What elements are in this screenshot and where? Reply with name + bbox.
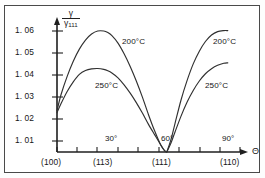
y-axis-numerator: γ	[62, 9, 80, 18]
x-axis-symbol-theta: Θ	[252, 147, 259, 156]
x-axis	[57, 149, 248, 155]
x-angle-label-30: 30°	[105, 135, 117, 143]
series-label-250c-left: 250°C	[95, 82, 118, 90]
y-axis-title: γ γ111	[62, 9, 80, 28]
series-label-200c-left: 200°C	[122, 38, 145, 46]
y-tick-label-1-01: 1. 01	[15, 136, 34, 144]
x-angle-label-60: 60°	[161, 135, 173, 143]
series-label-250c-right: 250°C	[205, 82, 228, 90]
x-angle-label-90: 90°	[222, 135, 234, 143]
figure-container: γ γ111 1. 06 1. 05 1. 04 1. 03 1. 02 1. …	[0, 0, 265, 178]
x-crystal-label-111: (111)	[152, 158, 171, 166]
x-crystal-label-110: (110)	[220, 158, 239, 166]
y-tick-label-1-04: 1. 04	[15, 70, 34, 78]
series-label-200c-right: 200°C	[213, 38, 236, 46]
y-axis	[54, 17, 60, 152]
x-crystal-label-113: (113)	[93, 158, 112, 166]
curve-250c	[57, 63, 228, 152]
y-tick-label-1-05: 1. 05	[15, 48, 34, 56]
y-tick-label-1-03: 1. 03	[15, 92, 34, 100]
x-crystal-label-100: (100)	[41, 158, 61, 166]
y-tick-label-1-02: 1. 02	[15, 114, 34, 122]
y-tick-label-1-06: 1. 06	[15, 26, 34, 34]
curve-200c	[57, 31, 228, 152]
y-axis-denominator: γ111	[62, 18, 80, 28]
